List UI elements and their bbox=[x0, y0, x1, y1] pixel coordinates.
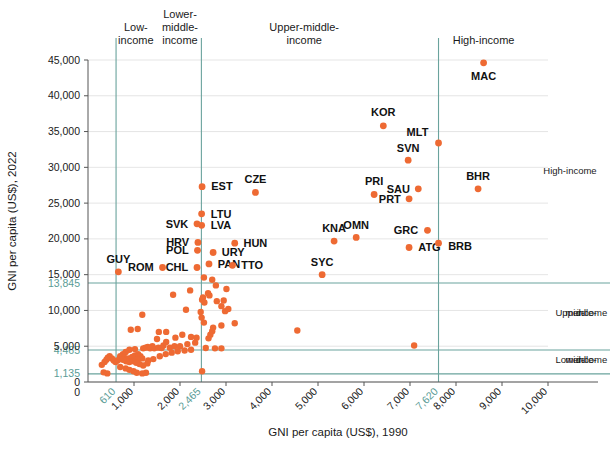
data-point-labeled bbox=[353, 234, 360, 241]
data-point bbox=[188, 347, 194, 353]
data-point bbox=[175, 348, 181, 354]
income-band-label-right: Lower-middle-income bbox=[555, 354, 607, 365]
data-point-labeled bbox=[406, 244, 413, 251]
data-point bbox=[150, 356, 156, 362]
y-axis-tick-label: 25,000 bbox=[48, 197, 80, 209]
data-point-labeled bbox=[194, 247, 201, 254]
data-point-label: KOR bbox=[371, 106, 396, 118]
data-point-labeled bbox=[229, 262, 236, 269]
data-point-labeled bbox=[475, 185, 482, 192]
data-point bbox=[133, 359, 139, 365]
data-point-label: BHR bbox=[466, 170, 490, 182]
scatter-chart: 01,1354,4655,00010,00013,84515,00020,000… bbox=[0, 0, 615, 451]
data-point bbox=[170, 292, 176, 298]
data-point-label: LTU bbox=[211, 208, 232, 220]
data-point bbox=[218, 303, 224, 309]
data-point-labeled bbox=[405, 157, 412, 164]
data-point bbox=[210, 324, 216, 330]
data-point bbox=[214, 298, 220, 304]
data-point bbox=[163, 351, 169, 357]
data-point bbox=[99, 362, 105, 368]
data-point-label: MLT bbox=[407, 126, 429, 138]
x-axis-tick-label: 0 bbox=[74, 386, 80, 398]
data-point-label: GRC bbox=[394, 224, 419, 236]
y-axis-tick-label: 30,000 bbox=[48, 161, 80, 173]
x-axis-title: GNI per capita (US$), 1990 bbox=[268, 426, 407, 438]
data-point-labeled bbox=[435, 240, 442, 247]
data-point bbox=[163, 329, 169, 335]
data-point-labeled bbox=[319, 271, 326, 278]
y-axis-tick-label-threshold: 1,135 bbox=[54, 367, 80, 379]
income-band-label-right: High-income bbox=[543, 165, 596, 176]
data-point-label: ROM bbox=[128, 261, 154, 273]
data-point-label: CHL bbox=[166, 261, 189, 273]
data-point bbox=[181, 347, 187, 353]
data-point bbox=[157, 353, 163, 359]
data-point bbox=[294, 327, 300, 333]
data-point-label: SVN bbox=[397, 142, 420, 154]
data-point bbox=[134, 326, 140, 332]
data-point bbox=[154, 336, 160, 342]
data-point-labeled bbox=[406, 195, 413, 202]
y-axis-tick-label: 45,000 bbox=[48, 54, 80, 66]
y-axis-tick-label: 15,000 bbox=[48, 268, 80, 280]
data-point bbox=[128, 327, 134, 333]
data-point bbox=[199, 368, 205, 374]
data-point-labeled bbox=[195, 239, 202, 246]
data-point-label: POL bbox=[166, 244, 189, 256]
data-point bbox=[201, 299, 207, 305]
data-point-labeled bbox=[159, 264, 166, 271]
data-point bbox=[179, 332, 185, 338]
data-point-labeled bbox=[199, 183, 206, 190]
chart-background bbox=[0, 0, 615, 451]
data-point-labeled bbox=[115, 268, 122, 275]
data-point bbox=[123, 365, 129, 371]
data-point-label: SYC bbox=[311, 256, 334, 268]
data-point bbox=[218, 322, 224, 328]
data-point-label: URY bbox=[222, 246, 245, 258]
data-point-label: GUY bbox=[106, 253, 131, 265]
data-point-label: PRT bbox=[379, 193, 401, 205]
data-point-labeled bbox=[371, 191, 378, 198]
data-point bbox=[140, 345, 146, 351]
data-point bbox=[139, 370, 145, 376]
data-point bbox=[225, 306, 231, 312]
data-point-label: MAC bbox=[471, 70, 496, 82]
y-axis-tick-label: 5,000 bbox=[54, 340, 80, 352]
income-band-label-top: High-income bbox=[453, 34, 515, 46]
data-point-labeled bbox=[435, 140, 442, 147]
data-point bbox=[201, 274, 207, 280]
y-axis-tick-label: 20,000 bbox=[48, 232, 80, 244]
data-point-label: TTO bbox=[241, 259, 263, 271]
data-point bbox=[188, 334, 194, 340]
data-point-labeled bbox=[380, 122, 387, 129]
data-point-label: SVK bbox=[166, 218, 189, 230]
data-point bbox=[212, 345, 218, 351]
data-point bbox=[169, 349, 175, 355]
data-point bbox=[411, 342, 417, 348]
data-point bbox=[232, 320, 238, 326]
data-point bbox=[183, 307, 189, 313]
data-point bbox=[206, 292, 212, 298]
data-point-labeled bbox=[206, 261, 213, 268]
y-axis-tick-label: 35,000 bbox=[48, 125, 80, 137]
data-point bbox=[100, 369, 106, 375]
data-point-labeled bbox=[194, 264, 201, 271]
data-point bbox=[218, 345, 224, 351]
chart-canvas: 01,1354,4655,00010,00013,84515,00020,000… bbox=[0, 0, 615, 451]
data-point bbox=[172, 334, 178, 340]
data-point bbox=[223, 286, 229, 292]
data-point bbox=[117, 364, 123, 370]
data-point bbox=[213, 282, 219, 288]
data-point bbox=[158, 345, 164, 351]
data-point bbox=[201, 319, 207, 325]
data-point-labeled bbox=[415, 185, 422, 192]
data-point-labeled bbox=[210, 249, 217, 256]
data-point-labeled bbox=[480, 59, 487, 66]
data-point-label: KNA bbox=[322, 222, 346, 234]
data-point bbox=[209, 276, 215, 282]
income-band-label-right: Upper-middle-income bbox=[555, 307, 607, 318]
data-point-label: CZE bbox=[244, 173, 266, 185]
data-point bbox=[156, 329, 162, 335]
data-point bbox=[221, 297, 227, 303]
